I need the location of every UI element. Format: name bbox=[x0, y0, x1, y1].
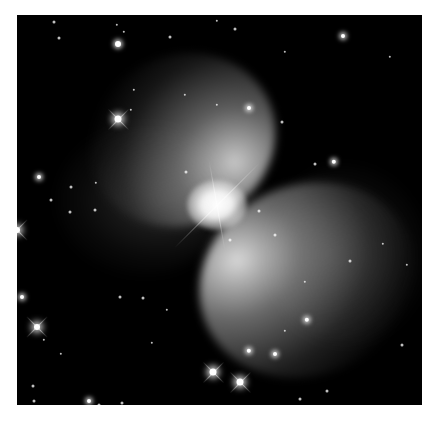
nebula-lower-right-lobe bbox=[167, 147, 422, 405]
star bbox=[247, 106, 251, 110]
star bbox=[115, 41, 121, 47]
nebula-upper-left-lobe bbox=[60, 23, 304, 257]
diffraction-spike bbox=[209, 161, 226, 250]
star bbox=[406, 264, 408, 266]
star bbox=[142, 297, 145, 300]
star bbox=[95, 182, 97, 184]
star bbox=[123, 31, 125, 33]
star bbox=[98, 404, 101, 406]
nebula-halo-left bbox=[57, 125, 227, 275]
star bbox=[258, 210, 261, 213]
star bbox=[119, 296, 122, 299]
star bbox=[216, 104, 218, 106]
star bbox=[58, 37, 61, 40]
star bbox=[34, 324, 40, 330]
star bbox=[349, 260, 352, 263]
star bbox=[234, 28, 237, 31]
star bbox=[305, 318, 309, 322]
star bbox=[389, 56, 391, 58]
star bbox=[216, 20, 218, 22]
star bbox=[115, 116, 122, 123]
star bbox=[341, 34, 345, 38]
star bbox=[130, 109, 132, 111]
star bbox=[53, 21, 56, 24]
star bbox=[70, 186, 73, 189]
nebula-photo bbox=[17, 15, 422, 405]
star bbox=[284, 51, 286, 53]
star bbox=[87, 399, 91, 403]
star bbox=[151, 342, 153, 344]
star bbox=[281, 121, 284, 124]
nebula-halo-right bbox=[267, 165, 422, 345]
diffraction-spike bbox=[174, 163, 260, 249]
star bbox=[169, 36, 172, 39]
star bbox=[229, 239, 232, 242]
star bbox=[60, 353, 62, 355]
star bbox=[69, 211, 72, 214]
star bbox=[166, 309, 168, 311]
star bbox=[382, 243, 384, 245]
star bbox=[32, 385, 35, 388]
star bbox=[401, 344, 404, 347]
star bbox=[314, 163, 317, 166]
star bbox=[121, 402, 124, 405]
star bbox=[33, 400, 36, 403]
star bbox=[210, 369, 217, 376]
star bbox=[184, 94, 186, 96]
star bbox=[237, 379, 244, 386]
star bbox=[133, 89, 135, 91]
star bbox=[20, 295, 24, 299]
star bbox=[284, 330, 286, 332]
star bbox=[326, 390, 329, 393]
star bbox=[332, 160, 336, 164]
star bbox=[17, 227, 20, 233]
star bbox=[50, 199, 53, 202]
star bbox=[94, 209, 97, 212]
star bbox=[247, 349, 251, 353]
star bbox=[116, 24, 118, 26]
star bbox=[274, 234, 277, 237]
star bbox=[185, 171, 188, 174]
star bbox=[37, 175, 41, 179]
star bbox=[304, 281, 306, 283]
star bbox=[43, 339, 45, 341]
star bbox=[273, 352, 277, 356]
star bbox=[299, 398, 302, 401]
nebula-core bbox=[187, 180, 247, 230]
